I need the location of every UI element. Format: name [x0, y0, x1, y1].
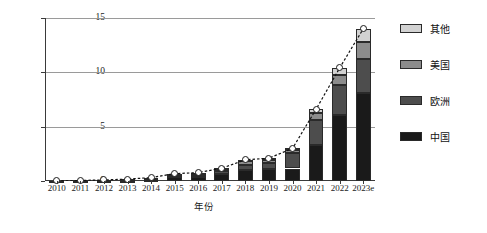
plot-area [45, 18, 375, 181]
bar-segment-cn [332, 115, 347, 181]
legend-label: 美国 [430, 57, 450, 72]
legend-swatch [400, 60, 422, 69]
bar-column [191, 18, 206, 181]
bar-segment-us [356, 42, 371, 59]
bar-column [120, 18, 135, 181]
x-axis-tick-mark [151, 181, 152, 184]
legend-swatch [400, 132, 422, 141]
y-axis-tick-mark [41, 181, 45, 182]
bar-segment-eu [262, 163, 277, 169]
trend-marker [218, 165, 225, 172]
x-axis-tick-mark [293, 181, 294, 184]
x-axis-tick-mark [316, 181, 317, 184]
axis-frame [45, 18, 375, 181]
bar-segment-eu [309, 120, 324, 145]
bar-column [332, 18, 347, 181]
bar-segment-cn [238, 170, 253, 181]
bar-segment-us [309, 113, 324, 120]
bar-segment-cn [356, 93, 371, 181]
bar-column [214, 18, 229, 181]
bar-segment-us [332, 75, 347, 86]
x-axis-tick-mark [269, 181, 270, 184]
x-axis-tick-mark [57, 181, 58, 184]
x-axis-tick-mark [80, 181, 81, 184]
legend-label: 欧洲 [430, 93, 450, 108]
bar-segment-eu [238, 165, 253, 169]
x-axis-tick-mark [363, 181, 364, 184]
x-axis-tick-mark [340, 181, 341, 184]
bar-segment-eu [356, 59, 371, 93]
legend-swatch [400, 96, 422, 105]
trend-marker [289, 145, 296, 152]
bar-column [356, 18, 371, 181]
x-axis-tick-mark [222, 181, 223, 184]
x-axis-tick-mark [245, 181, 246, 184]
x-axis-tick-mark [104, 181, 105, 184]
legend-swatch [400, 24, 422, 33]
bar-column [49, 18, 64, 181]
legend-item[interactable]: 欧洲 [400, 94, 450, 106]
x-axis-title-text: 年份 [194, 199, 214, 213]
bar-segment-eu [332, 85, 347, 114]
bar-column [309, 18, 324, 181]
legend-item[interactable]: 美国 [400, 58, 450, 70]
bar-column [73, 18, 88, 181]
bar-segment-cn [309, 145, 324, 181]
legend-label: 其他 [430, 21, 450, 36]
bar-column [285, 18, 300, 181]
x-axis-title: 年份 [0, 199, 487, 213]
bar-column [97, 18, 112, 181]
legend-item[interactable]: 中国 [400, 130, 450, 142]
chart-root: 销量(×106) 051015 201020112012201320142015… [0, 0, 487, 233]
legend-item[interactable]: 其他 [400, 22, 450, 34]
legend-label: 中国 [430, 129, 450, 144]
x-axis-tick-label: 2023e [347, 184, 379, 193]
trend-marker [313, 106, 320, 113]
bar-segment-cn [285, 169, 300, 181]
bar-column [144, 18, 159, 181]
x-axis-tick-mark [198, 181, 199, 184]
trend-marker [195, 169, 202, 176]
x-axis-tick-mark [128, 181, 129, 184]
bar-segment-eu [285, 153, 300, 168]
bar-column [167, 18, 182, 181]
bar-segment-cn [214, 174, 229, 181]
bar-segment-cn [262, 169, 277, 181]
x-axis-tick-mark [175, 181, 176, 184]
